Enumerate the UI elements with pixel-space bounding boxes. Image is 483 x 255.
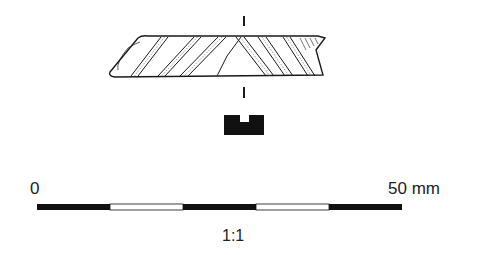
scale-segment-5 <box>329 204 402 210</box>
scale-segment-2 <box>110 204 183 210</box>
scale-bar <box>37 204 402 210</box>
artifact-drawing <box>0 0 483 255</box>
cross-section-profile <box>224 115 264 135</box>
scale-segment-4 <box>256 204 329 210</box>
scale-start-label: 0 <box>30 180 39 197</box>
scale-end-label: 50 mm <box>388 180 440 197</box>
scale-segment-1 <box>37 204 110 210</box>
scale-segment-3 <box>183 204 256 210</box>
scale-ratio-label: 1:1 <box>222 228 244 244</box>
